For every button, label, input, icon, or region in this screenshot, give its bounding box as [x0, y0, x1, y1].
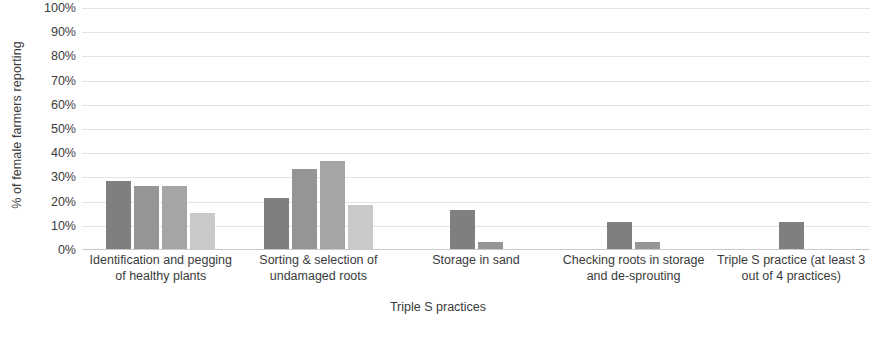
- y-axis-tick-labels: 100%90%80%70%60%50%40%30%20%10%0%: [34, 8, 80, 250]
- y-axis-tick-label: 40%: [32, 146, 76, 160]
- y-axis-tick-label: 20%: [32, 195, 76, 209]
- x-axis-title: Triple S practices: [0, 300, 876, 314]
- x-axis-line: [82, 249, 870, 250]
- bar: [134, 186, 159, 249]
- x-axis-category-label: Triple S practice (at least 3 out of 4 p…: [716, 252, 866, 284]
- x-axis-category-label: Storage in sand: [401, 252, 551, 268]
- bar: [779, 222, 804, 249]
- y-axis-tick-label: 90%: [32, 25, 76, 39]
- y-axis-tick-label: 100%: [32, 1, 76, 15]
- bar: [162, 186, 187, 249]
- y-axis-tick-label: 60%: [32, 98, 76, 112]
- bars-layer: [82, 8, 870, 250]
- y-axis-tick-label: 50%: [32, 122, 76, 136]
- bar: [320, 161, 345, 249]
- x-axis-category-label: Identification and pegging of healthy pl…: [86, 252, 236, 284]
- y-axis-title-label: % of female farmers reporting: [10, 41, 24, 209]
- plot-area: [82, 8, 870, 250]
- bar: [607, 222, 632, 249]
- bar: [106, 181, 131, 249]
- y-axis-tick-label: 70%: [32, 74, 76, 88]
- bar: [478, 242, 503, 249]
- y-axis-title: % of female farmers reporting: [0, 0, 34, 250]
- y-axis-tick-label: 0%: [32, 243, 76, 257]
- x-axis-category-label: Sorting & selection of undamaged roots: [244, 252, 394, 284]
- y-axis-tick-label: 80%: [32, 49, 76, 63]
- x-axis-category-label: Checking roots in storage and de-sprouti…: [559, 252, 709, 284]
- y-axis-tick-label: 10%: [32, 219, 76, 233]
- bar: [635, 242, 660, 249]
- bar: [190, 213, 215, 249]
- bar: [348, 205, 373, 249]
- x-axis-title-label: Triple S practices: [390, 300, 486, 314]
- bar: [292, 169, 317, 249]
- y-axis-tick-label: 30%: [32, 170, 76, 184]
- bar: [264, 198, 289, 249]
- bar-chart: % of female farmers reporting 100%90%80%…: [0, 0, 876, 339]
- bar: [450, 210, 475, 249]
